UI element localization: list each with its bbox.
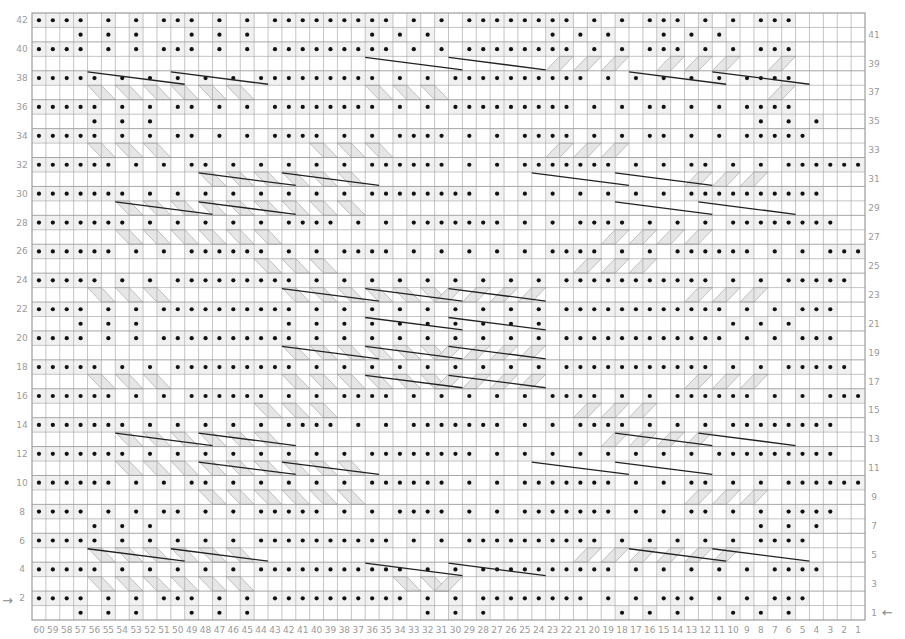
purl-dot (398, 163, 402, 167)
purl-dot (606, 336, 610, 340)
purl-dot (800, 307, 804, 311)
purl-dot (315, 220, 319, 224)
purl-dot (162, 47, 166, 51)
purl-dot (564, 567, 568, 571)
purl-dot (120, 423, 124, 427)
purl-dot (773, 134, 777, 138)
purl-dot (689, 249, 693, 253)
purl-dot (203, 510, 207, 514)
purl-dot (162, 163, 166, 167)
purl-dot (78, 47, 82, 51)
purl-dot (398, 192, 402, 196)
purl-dot (328, 596, 332, 600)
purl-dot (800, 596, 804, 600)
purl-dot (217, 47, 221, 51)
row-label-right: 25 (868, 261, 879, 271)
purl-dot (606, 163, 610, 167)
purl-dot (65, 47, 69, 51)
purl-dot (551, 105, 555, 109)
purl-dot (481, 596, 485, 600)
purl-dot (148, 220, 152, 224)
purl-dot (578, 192, 582, 196)
purl-dot (828, 220, 832, 224)
purl-dot (773, 452, 777, 456)
purl-dot (731, 192, 735, 196)
purl-dot (551, 596, 555, 600)
purl-dot (370, 192, 374, 196)
row-label-left: 26 (16, 246, 28, 256)
purl-dot (648, 47, 652, 51)
purl-dot (842, 249, 846, 253)
purl-dot (523, 134, 527, 138)
column-label: 59 (47, 625, 59, 635)
purl-dot (481, 105, 485, 109)
purl-dot (162, 481, 166, 485)
row-label-left: 24 (16, 275, 28, 285)
purl-dot (37, 394, 41, 398)
purl-dot (78, 249, 82, 253)
purl-dot (37, 336, 41, 340)
purl-dot (315, 538, 319, 542)
column-label: 32 (422, 625, 433, 635)
purl-dot (92, 423, 96, 427)
column-label: 25 (519, 625, 530, 635)
purl-dot (745, 192, 749, 196)
column-label: 21 (575, 625, 586, 635)
purl-dot (495, 134, 499, 138)
purl-dot (342, 105, 346, 109)
purl-dot (828, 365, 832, 369)
purl-dot (648, 134, 652, 138)
purl-dot (92, 481, 96, 485)
purl-dot (92, 567, 96, 571)
purl-dot (301, 76, 305, 80)
purl-dot (328, 76, 332, 80)
purl-dot (537, 134, 541, 138)
purl-dot (203, 365, 207, 369)
purl-dot (467, 452, 471, 456)
purl-dot (717, 452, 721, 456)
purl-dot (231, 423, 235, 427)
purl-dot (342, 365, 346, 369)
purl-dot (315, 76, 319, 80)
purl-dot (120, 567, 124, 571)
purl-dot (703, 163, 707, 167)
purl-dot (703, 249, 707, 253)
row-label-left: 36 (16, 102, 28, 112)
purl-dot (564, 249, 568, 253)
purl-dot (717, 249, 721, 253)
purl-dot (315, 105, 319, 109)
purl-dot (120, 524, 124, 528)
purl-dot (190, 47, 194, 51)
purl-dot (537, 481, 541, 485)
purl-dot (134, 163, 138, 167)
purl-dot (606, 278, 610, 282)
purl-dot (634, 481, 638, 485)
purl-dot (662, 278, 666, 282)
purl-dot (453, 322, 457, 326)
purl-dot (773, 394, 777, 398)
purl-dot (703, 510, 707, 514)
purl-dot (231, 481, 235, 485)
purl-dot (148, 423, 152, 427)
purl-dot (759, 192, 763, 196)
purl-dot (398, 452, 402, 456)
column-label: 24 (533, 625, 545, 635)
purl-dot (787, 567, 791, 571)
purl-dot (37, 134, 41, 138)
purl-dot (634, 510, 638, 514)
purl-dot (828, 307, 832, 311)
purl-dot (315, 249, 319, 253)
purl-dot (481, 538, 485, 542)
purl-dot (384, 163, 388, 167)
purl-dot (564, 481, 568, 485)
purl-dot (426, 220, 430, 224)
purl-dot (453, 307, 457, 311)
purl-dot (675, 18, 679, 22)
purl-dot (453, 567, 457, 571)
cable-cross-bar (629, 72, 726, 84)
purl-dot (439, 220, 443, 224)
purl-dot (523, 596, 527, 600)
purl-dot (773, 192, 777, 196)
purl-dot (662, 307, 666, 311)
purl-dot (578, 510, 582, 514)
